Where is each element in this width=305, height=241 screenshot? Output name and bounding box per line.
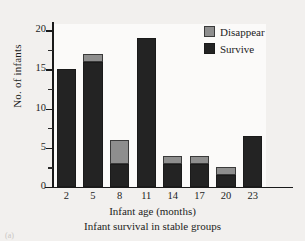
y-tick-minor (48, 128, 53, 129)
bar-stack[interactable] (216, 167, 235, 187)
bar-segment-disappear (190, 156, 209, 164)
x-tick-label: 11 (131, 190, 161, 201)
y-tick-minor (48, 167, 53, 168)
x-tick-label: 5 (78, 190, 108, 201)
bar-stack[interactable] (163, 156, 182, 187)
legend: Disappear Survive (204, 24, 265, 58)
chart-subtitle: Infant survival in stable groups (0, 220, 305, 232)
y-tick-major (46, 187, 53, 188)
x-tick-label: 8 (105, 190, 135, 201)
y-tick-major (46, 109, 53, 110)
bar-stack[interactable] (110, 140, 129, 187)
x-tick-label: 17 (184, 190, 214, 201)
y-tick-major (46, 30, 53, 31)
bar-segment-survive (216, 175, 235, 187)
bar-segment-survive (190, 164, 209, 188)
bar-segment-survive (110, 164, 129, 188)
y-tick-label: 10 (20, 102, 46, 113)
y-tick-minor (48, 50, 53, 51)
bar-segment-survive (163, 164, 182, 188)
x-tick-label: 14 (158, 190, 188, 201)
bar-segment-disappear (83, 54, 102, 62)
figure-container: No. of infants 05101520 2581114172023 In… (0, 0, 305, 241)
y-tick-label: 20 (20, 23, 46, 34)
bar-segment-survive (57, 69, 76, 187)
y-tick-label: 15 (20, 62, 46, 73)
y-axis-label: No. of infants (11, 21, 23, 131)
bar-segment-disappear (216, 167, 235, 175)
survive-swatch-icon (204, 43, 215, 54)
panel-letter: (a) (5, 231, 14, 240)
legend-item-survive[interactable]: Survive (204, 41, 265, 56)
x-tick-label: 20 (211, 190, 241, 201)
y-tick-label: 5 (20, 141, 46, 152)
legend-item-disappear[interactable]: Disappear (204, 24, 265, 39)
bar-segment-survive (83, 62, 102, 187)
y-tick-label: 0 (20, 180, 46, 191)
bar-segment-survive (243, 136, 262, 187)
y-tick-major (46, 148, 53, 149)
bar-segment-survive (137, 38, 156, 187)
disappear-swatch-icon (204, 26, 215, 37)
x-tick-label: 2 (51, 190, 81, 201)
y-tick-minor (48, 89, 53, 90)
legend-label-disappear: Disappear (220, 26, 265, 38)
legend-label-survive: Survive (220, 43, 254, 55)
bar-segment-disappear (110, 140, 129, 164)
x-axis-title: Infant age (months) (0, 205, 305, 217)
bar-stack[interactable] (57, 69, 76, 187)
bar-segment-disappear (163, 156, 182, 164)
bar-stack[interactable] (243, 136, 262, 187)
bar-stack[interactable] (137, 38, 156, 187)
bar-stack[interactable] (190, 156, 209, 187)
y-tick-major (46, 69, 53, 70)
bar-stack[interactable] (83, 54, 102, 187)
x-tick-label: 23 (238, 190, 268, 201)
